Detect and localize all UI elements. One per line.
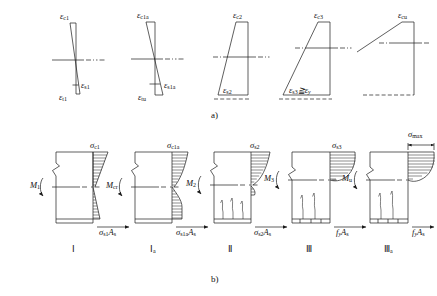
stress-4-concrete-label: σs3 — [332, 141, 342, 150]
stress-1-steel-force-label: σs1As — [99, 228, 116, 237]
figure-canvas — [0, 0, 437, 296]
stress-diagram-2 — [119, 152, 208, 227]
stress-5-roman-label: Ⅲa — [384, 244, 393, 254]
stress-1-moment-label: M1 — [30, 181, 40, 190]
figure-root: εc1 εs1 εt1 εc1a εs1a εtu εc2 εs2 εc3 εs… — [0, 0, 437, 296]
strain-1-steel-label: εs1 — [81, 81, 90, 90]
strain-2-steel-label: εs1a — [164, 81, 175, 90]
stress-diagram-4 — [276, 152, 366, 227]
strain-4-steel-label: εs3≧εy — [289, 86, 311, 95]
strain-5-top-label: εcu — [398, 11, 407, 20]
stress-5-steel-force-label: fyAs — [412, 228, 425, 237]
stress-1-roman-label: Ⅰ — [72, 244, 75, 254]
stress-3-concrete-label: σs2 — [250, 141, 260, 150]
strain-diagram-2 — [131, 22, 185, 95]
strain-diagram-3 — [213, 22, 270, 99]
stress-4-moment-label: M3 — [264, 174, 274, 183]
stress-2-concrete-label: σc1a — [167, 141, 180, 150]
stress-4-steel-force-label: fyAs — [336, 228, 349, 237]
strain-3-steel-label: εs2 — [223, 86, 232, 95]
caption-a: a) — [211, 110, 218, 120]
caption-b: b) — [211, 274, 219, 284]
stress-diagram-5 — [354, 143, 435, 227]
stress-diagram-3 — [198, 152, 287, 227]
stress-2-roman-label: Ⅰa — [150, 244, 156, 254]
strain-2-top-label: εc1a — [137, 11, 149, 20]
stress-5-moment-label: Mu — [342, 174, 352, 183]
strain-diagram-5 — [357, 22, 431, 95]
stress-2-moment-label: Mcr — [106, 181, 118, 190]
strain-1-top-label: εc1 — [60, 12, 69, 21]
strain-2-tension-label: εtu — [138, 93, 146, 102]
strain-3-top-label: εc2 — [233, 11, 242, 20]
stress-1-concrete-label: σc1 — [90, 141, 100, 150]
stress-2-steel-force-label: σs1aAs — [176, 228, 196, 237]
strain-4-top-label: εc3 — [314, 11, 323, 20]
rebar-ticks-3 — [300, 219, 321, 223]
stress-3-moment-label: M2 — [186, 179, 196, 188]
stress-3-steel-force-label: σs2As — [254, 228, 271, 237]
stress-4-roman-label: Ⅲ — [306, 244, 312, 254]
strain-diagram-1 — [52, 23, 106, 94]
stress-5-concrete-label: σmax — [408, 130, 423, 139]
strain-1-tension-label: εt1 — [59, 93, 67, 102]
stress-3-roman-label: Ⅱ — [228, 244, 232, 254]
